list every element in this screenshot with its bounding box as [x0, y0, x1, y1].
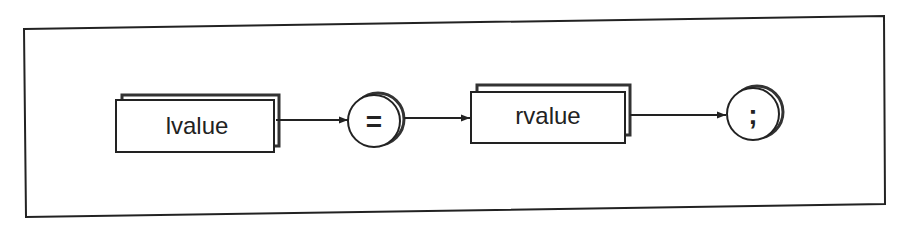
syntax-diagram: lvalue = rvalue ; [0, 0, 911, 230]
assign-label: = [366, 106, 382, 137]
rvalue-label: rvalue [515, 102, 580, 129]
semicolon-label: ; [748, 99, 757, 130]
lvalue-label: lvalue [166, 112, 229, 139]
node-assign: = [348, 93, 404, 147]
node-lvalue: lvalue [116, 95, 279, 152]
node-rvalue: rvalue [471, 85, 630, 143]
node-semicolon: ; [727, 86, 783, 140]
